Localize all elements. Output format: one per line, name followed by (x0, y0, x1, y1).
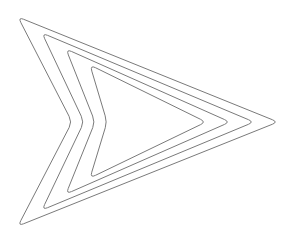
canvas-background (0, 0, 299, 243)
nested-chevron-figure (0, 0, 299, 243)
figure-canvas (0, 0, 299, 243)
